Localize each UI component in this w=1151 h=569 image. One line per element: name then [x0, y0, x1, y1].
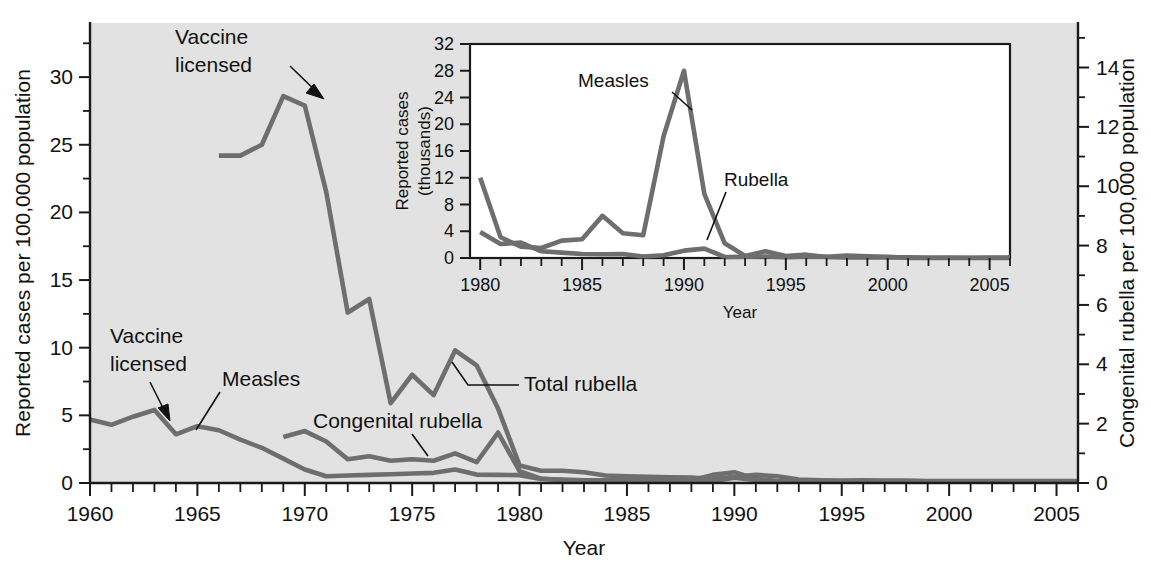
right-axis-tick-label: 2 — [1096, 412, 1108, 435]
inset-left-axis-tick-label: 0 — [444, 248, 454, 268]
inset-bottom-axis-title: Year — [723, 303, 758, 322]
inset-left-axis-tick-label: 20 — [434, 114, 454, 134]
inset-left-axis-tick-label: 12 — [434, 168, 454, 188]
inset-bottom-axis-tick-label: 1995 — [766, 275, 806, 295]
bottom-axis-tick-label: 1990 — [711, 502, 758, 525]
left-axis-tick-label: 20 — [50, 200, 73, 223]
left-axis-tick-label: 10 — [50, 336, 73, 359]
annotation-measles-label: Measles — [222, 367, 300, 390]
bottom-axis-tick-label: 1980 — [496, 502, 543, 525]
right-axis-tick-label: 0 — [1096, 471, 1108, 494]
inset-left-axis-tick-label: 8 — [444, 195, 454, 215]
main-right-axis: 02468101214Congenital rubella per 100,00… — [1078, 22, 1138, 494]
annotation-vaccine-licensed-rubella-line1: Vaccine — [175, 25, 248, 48]
measles-rubella-incidence-chart: 051015202530Reported cases per 100,000 p… — [0, 0, 1151, 569]
inset-left-axis-title-line2: (thousands) — [415, 106, 434, 196]
inset-left-axis-tick-label: 32 — [434, 34, 454, 54]
annotation-vaccine-licensed-rubella-line2: licensed — [175, 53, 252, 76]
inset-left-axis-title-line1: Reported cases — [393, 91, 412, 210]
bottom-axis-tick-label: 2000 — [926, 502, 973, 525]
bottom-axis-tick-label: 1965 — [174, 502, 221, 525]
inset-annotation-rubella-label: Rubella — [724, 169, 789, 190]
bottom-axis-tick-label: 1995 — [818, 502, 865, 525]
inset-left-axis-tick-label: 28 — [434, 61, 454, 81]
main-left-axis: 051015202530Reported cases per 100,000 p… — [11, 22, 90, 494]
left-axis-title: Reported cases per 100,000 population — [11, 69, 34, 437]
inset-left-axis-tick-label: 24 — [434, 88, 454, 108]
right-axis-tick-label: 8 — [1096, 234, 1108, 257]
inset-bottom-axis-tick-label: 2000 — [868, 275, 908, 295]
annotation-vaccine-licensed-measles-line2: licensed — [110, 352, 187, 375]
bottom-axis-tick-label: 1985 — [604, 502, 651, 525]
bottom-axis-tick-label: 1960 — [67, 502, 114, 525]
left-axis-tick-label: 5 — [61, 403, 73, 426]
bottom-axis-title: Year — [563, 536, 605, 559]
left-axis-tick-label: 0 — [61, 471, 73, 494]
inset-bottom-axis-tick-label: 1985 — [562, 275, 602, 295]
annotation-total-rubella-label: Total rubella — [524, 372, 638, 395]
inset-left-axis-tick-label: 16 — [434, 141, 454, 161]
main-bottom-axis: 1960196519701975198019851990199520002005… — [67, 483, 1080, 559]
inset-bottom-axis-tick-label: 1990 — [664, 275, 704, 295]
bottom-axis-tick-label: 1970 — [281, 502, 328, 525]
inset-plot-box — [470, 44, 1010, 258]
inset-annotation-measles-label: Measles — [578, 70, 649, 91]
right-axis-title: Congenital rubella per 100,000 populatio… — [1115, 58, 1138, 448]
right-axis-tick-label: 6 — [1096, 293, 1108, 316]
inset-bottom-axis-tick-label: 2005 — [970, 275, 1010, 295]
chart-figure: 051015202530Reported cases per 100,000 p… — [0, 0, 1151, 569]
left-axis-tick-label: 15 — [50, 268, 73, 291]
left-axis-tick-label: 30 — [50, 65, 73, 88]
bottom-axis-tick-label: 2005 — [1033, 502, 1080, 525]
annotation-vaccine-licensed-measles-line1: Vaccine — [110, 324, 183, 347]
bottom-axis-tick-label: 1975 — [389, 502, 436, 525]
inset-bottom-axis-tick-label: 1980 — [460, 275, 500, 295]
inset-left-axis-tick-label: 4 — [444, 221, 454, 241]
annotation-congenital-rubella-label: Congenital rubella — [313, 409, 483, 432]
left-axis-tick-label: 25 — [50, 133, 73, 156]
right-axis-tick-label: 4 — [1096, 352, 1108, 375]
